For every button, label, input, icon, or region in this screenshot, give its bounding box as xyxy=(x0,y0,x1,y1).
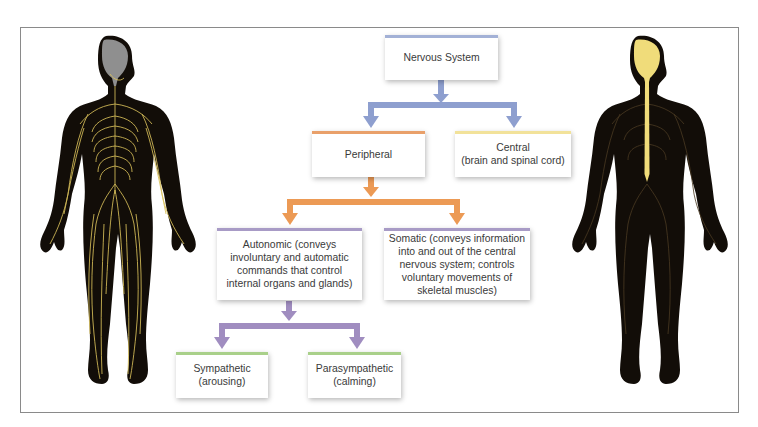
node-nervous-system: Nervous System xyxy=(385,35,498,80)
node-sympathetic: Sympathetic (arousing) xyxy=(176,352,268,398)
node-color-bar xyxy=(308,352,401,355)
node-label-line1: Parasympathetic xyxy=(316,362,393,375)
central-nervous-system-figure xyxy=(560,34,730,396)
node-somatic: Somatic (conveys information into and ou… xyxy=(384,228,530,300)
spinal-cord-highlight xyxy=(645,82,650,182)
node-label-line1: Central xyxy=(496,141,530,154)
node-label: Peripheral xyxy=(345,148,392,161)
node-label: Somatic (conveys information into and ou… xyxy=(388,232,526,297)
node-label: Autonomic (conveys involuntary and autom… xyxy=(225,238,354,290)
node-central: Central (brain and spinal cord) xyxy=(455,131,571,177)
node-color-bar xyxy=(384,228,530,231)
node-label: Nervous System xyxy=(403,51,479,64)
node-color-bar xyxy=(176,352,268,355)
peripheral-nervous-system-figure xyxy=(28,34,198,396)
node-color-bar xyxy=(385,35,498,38)
node-parasympathetic: Parasympathetic (calming) xyxy=(308,352,401,398)
node-autonomic: Autonomic (conveys involuntary and autom… xyxy=(217,228,362,300)
node-label-line2: (calming) xyxy=(333,375,376,388)
node-color-bar xyxy=(217,228,362,231)
body-silhouette xyxy=(572,36,728,384)
node-label-line2: (brain and spinal cord) xyxy=(461,154,564,167)
node-color-bar xyxy=(455,131,571,134)
node-peripheral: Peripheral xyxy=(312,131,425,177)
node-color-bar xyxy=(312,131,425,134)
node-label-line1: Sympathetic xyxy=(193,362,250,375)
node-label-line2: (arousing) xyxy=(199,375,246,388)
